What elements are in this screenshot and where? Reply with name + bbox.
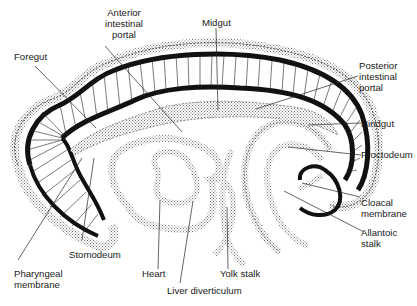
embryo-gut-diagram bbox=[0, 0, 417, 306]
label-proctodeum: Proctodeum bbox=[361, 149, 413, 160]
label-posterior-intestinal-portal: Posterior intestinal portal bbox=[359, 60, 397, 93]
label-allantoic-stalk: Allantoic stalk bbox=[361, 227, 397, 249]
label-heart: Heart bbox=[142, 268, 165, 279]
label-foregut: Foregut bbox=[14, 51, 47, 62]
label-hindgut: Hindgut bbox=[361, 118, 394, 129]
label-midgut: Midgut bbox=[202, 17, 231, 28]
label-pharyngeal-membrane: Pharyngeal membrane bbox=[14, 268, 63, 290]
label-stomodeum: Stomodeum bbox=[69, 249, 121, 260]
allantois-inner-loop bbox=[267, 144, 322, 246]
label-yolk-stalk: Yolk stalk bbox=[220, 268, 260, 279]
label-anterior-intestinal-portal: Anterior intestinal portal bbox=[91, 7, 157, 40]
label-liver-diverticulum: Liver diverticulum bbox=[167, 285, 242, 296]
label-cloacal-membrane: Cloacal membrane bbox=[361, 197, 407, 219]
